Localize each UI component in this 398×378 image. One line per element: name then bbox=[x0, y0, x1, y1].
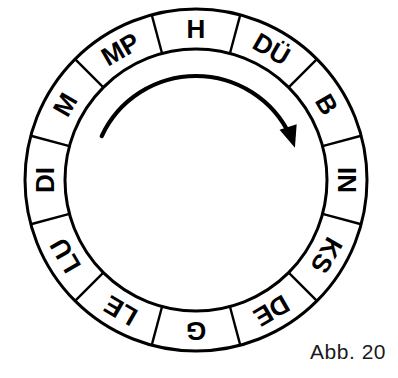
segment-label-h: H bbox=[187, 14, 206, 44]
segment-label-di: DI bbox=[30, 167, 60, 193]
inner-circle bbox=[65, 49, 327, 311]
figure-canvas: HDÜBINKSDEGLELUDIMMP Abb. 20 bbox=[0, 0, 398, 378]
figure-caption: Abb. 20 bbox=[310, 340, 386, 364]
segment-label-g: G bbox=[186, 316, 206, 346]
ring-diagram: HDÜBINKSDEGLELUDIMMP bbox=[0, 0, 398, 378]
segment-label-in: IN bbox=[332, 167, 362, 193]
